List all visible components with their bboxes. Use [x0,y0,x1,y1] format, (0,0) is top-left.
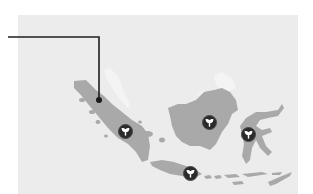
map-marker-java[interactable] [183,166,198,181]
mentawai-island [89,110,95,114]
enggano-island [104,135,108,138]
map-marker-sulawesi[interactable] [241,127,256,142]
map-marker-sumatra[interactable] [118,124,133,139]
belitung-island [159,138,165,143]
north-borneo-land [214,72,236,92]
flores-island [242,172,268,177]
siberut-island [96,120,101,124]
indonesia-map [0,0,313,194]
sumbawa-island [224,174,240,178]
sumba-island [232,181,244,185]
nias-island [79,98,85,102]
plant-sprout-icon [186,169,195,178]
lombok-island [214,175,222,179]
callout-dot [96,97,102,103]
riau-island [138,121,142,124]
plant-sprout-icon [205,118,214,127]
alor-island [272,172,282,175]
bali-island [204,175,212,179]
plant-sprout-icon [121,127,130,136]
bangka-island [143,131,153,137]
plant-sprout-icon [244,130,253,139]
map-marker-borneo[interactable] [202,115,217,130]
